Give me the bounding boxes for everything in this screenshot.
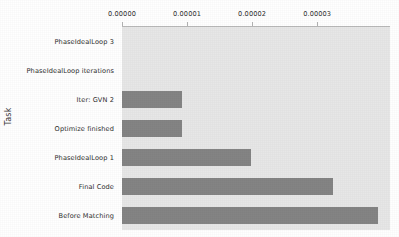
- y-tick-label: PhaseIdealLoop 3: [0, 38, 114, 46]
- y-tick-label: Before Matching: [0, 212, 114, 220]
- x-tick-label: 0.00003: [287, 10, 347, 18]
- bar: [122, 120, 182, 138]
- x-tick-label: 0.00001: [157, 10, 217, 18]
- y-axis-tick-labels: PhaseIdealLoop 3PhaseIdealLoop iteration…: [0, 27, 118, 230]
- x-tick-mark: [122, 22, 123, 26]
- x-tick-label: 0.00002: [222, 10, 282, 18]
- bar: [122, 91, 182, 109]
- x-tick-mark: [252, 22, 253, 26]
- y-tick-label: Final Code: [0, 183, 114, 191]
- x-axis-tick-labels: 0.000000.000010.000020.00003: [0, 10, 399, 22]
- plot-area: [122, 27, 390, 230]
- y-tick-label: Optimize finished: [0, 125, 114, 133]
- bar-chart: Task 0.000000.000010.000020.00003 PhaseI…: [0, 0, 399, 237]
- x-tick-mark: [187, 22, 188, 26]
- bar: [122, 149, 251, 167]
- y-tick-label: Iter: GVN 2: [0, 96, 114, 104]
- y-tick-label: PhaseIdealLoop iterations: [0, 67, 114, 75]
- x-tick-mark: [317, 22, 318, 26]
- bar: [122, 207, 378, 225]
- x-tick-label: 0.00000: [92, 10, 152, 18]
- y-tick-label: PhaseIdealLoop 1: [0, 154, 114, 162]
- bar: [122, 178, 333, 196]
